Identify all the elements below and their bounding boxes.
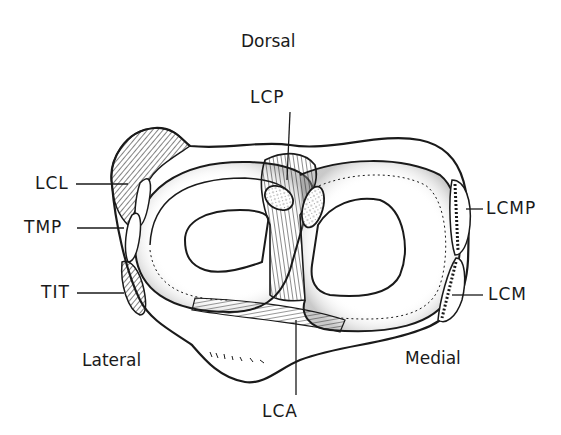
meniscus-diagram: Dorsal Lateral Medial LCP LCL TMP TIT LC… (0, 0, 561, 435)
label-lca: LCA (262, 403, 298, 420)
label-lcp: LCP (250, 89, 285, 106)
label-lcl: LCL (35, 175, 69, 192)
orientation-medial-label: Medial (405, 350, 461, 367)
label-tit: TIT (41, 284, 70, 301)
medial-meniscus (300, 161, 460, 331)
label-lcmp: LCMP (486, 200, 536, 217)
label-lcm: LCM (488, 286, 527, 303)
orientation-dorsal-label: Dorsal (241, 33, 295, 50)
label-tmp: TMP (24, 219, 62, 236)
orientation-lateral-label: Lateral (82, 352, 141, 369)
